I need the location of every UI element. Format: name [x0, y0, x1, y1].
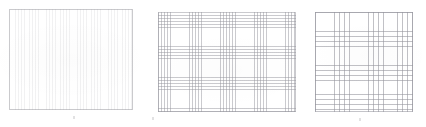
mesh-border-fine — [9, 9, 133, 110]
panel-tick-coarse — [359, 118, 361, 121]
mesh-panel-coarse — [315, 12, 413, 112]
panel-tick-fine — [73, 116, 75, 119]
mesh-comparison-figure — [0, 0, 426, 127]
panel-tick-medium — [152, 117, 154, 120]
mesh-border-coarse — [315, 12, 413, 112]
mesh-panel-medium — [158, 12, 296, 112]
mesh-panel-fine — [9, 9, 133, 110]
mesh-border-medium — [158, 12, 296, 112]
